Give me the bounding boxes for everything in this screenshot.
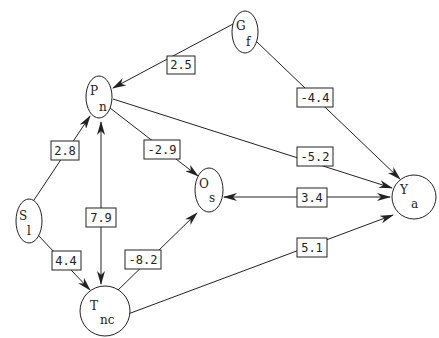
weight-label-t-o: -8.2	[125, 250, 161, 269]
weight-label-t-y: 5.1	[297, 238, 327, 257]
svg-text:T: T	[90, 299, 98, 313]
svg-text:n: n	[99, 100, 107, 114]
weight-label-g-y: -4.4	[297, 88, 333, 107]
weight-label-s-t: 4.4	[52, 251, 81, 270]
svg-text:-8.2: -8.2	[129, 253, 158, 267]
edge-t-y	[128, 215, 393, 314]
svg-text:O: O	[199, 177, 209, 191]
svg-text:2.8: 2.8	[54, 144, 76, 158]
weight-label-o-y: 3.4	[297, 188, 327, 207]
svg-text:P: P	[90, 84, 98, 98]
svg-text:nc: nc	[100, 313, 115, 327]
svg-text:3.4: 3.4	[301, 191, 323, 205]
svg-text:7.9: 7.9	[90, 211, 112, 225]
svg-text:s: s	[209, 191, 215, 205]
svg-text:G: G	[236, 19, 246, 33]
svg-text:5.1: 5.1	[301, 241, 323, 255]
node-o: O s	[195, 168, 223, 212]
weight-label-p-t: 7.9	[86, 208, 116, 227]
svg-text:-2.9: -2.9	[148, 143, 177, 157]
svg-text:a: a	[411, 197, 418, 211]
svg-text:2.5: 2.5	[170, 58, 192, 72]
weight-label-g-p: 2.5	[167, 56, 195, 74]
causal-diagram: 2.5 -4.4 -2.9 -5.2 2.8 7.9 4.4 -8.2 3.4 …	[0, 0, 439, 338]
node-s: S l	[16, 199, 42, 243]
svg-text:-5.2: -5.2	[301, 150, 330, 164]
node-y: Y a	[392, 175, 436, 219]
node-t: T nc	[80, 286, 130, 336]
weight-label-s-p: 2.8	[51, 141, 79, 160]
svg-text:Y: Y	[399, 183, 409, 197]
svg-text:l: l	[27, 224, 31, 238]
weight-label-p-y: -5.2	[297, 147, 333, 166]
node-p: P n	[86, 76, 112, 118]
svg-text:4.4: 4.4	[55, 254, 77, 268]
weight-label-p-o: -2.9	[144, 140, 180, 159]
node-g: G f	[232, 11, 258, 53]
svg-text:-4.4: -4.4	[301, 91, 330, 105]
svg-text:S: S	[19, 209, 27, 223]
